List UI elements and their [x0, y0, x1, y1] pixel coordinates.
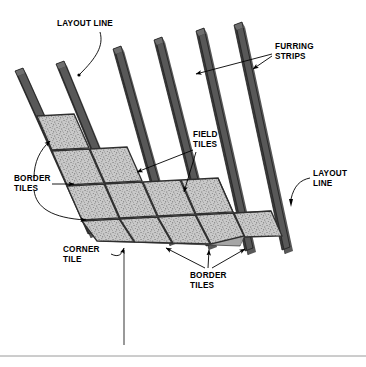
ceiling-tile-diagram: LAYOUT LINE FURRING STRIPS FIELD TILES L… — [0, 0, 366, 367]
label-layout-line-right-line2: LINE — [313, 179, 333, 188]
leader-layout-line-top-dot — [77, 73, 80, 76]
label-corner-tile-line2: TILE — [63, 255, 82, 264]
diagram-canvas: LAYOUT LINE FURRING STRIPS FIELD TILES L… — [0, 0, 366, 367]
label-layout-line-right-line1: LAYOUT — [313, 169, 347, 178]
label-border-tiles-left-line2: TILES — [14, 184, 39, 193]
label-layout-line-top: LAYOUT LINE — [57, 19, 113, 28]
label-furring-strips-line1: FURRING — [275, 42, 314, 51]
label-border-tiles-left-line1: BORDER — [14, 174, 51, 183]
label-corner-tile-line1: CORNER — [63, 245, 100, 254]
label-border-tiles-bottom-line2: TILES — [190, 281, 215, 290]
label-field-tiles-line1: FIELD — [193, 130, 218, 139]
label-field-tiles-line2: TILES — [193, 140, 218, 149]
label-furring-strips-line2: STRIPS — [275, 52, 306, 61]
label-border-tiles-bottom-line1: BORDER — [190, 271, 227, 280]
